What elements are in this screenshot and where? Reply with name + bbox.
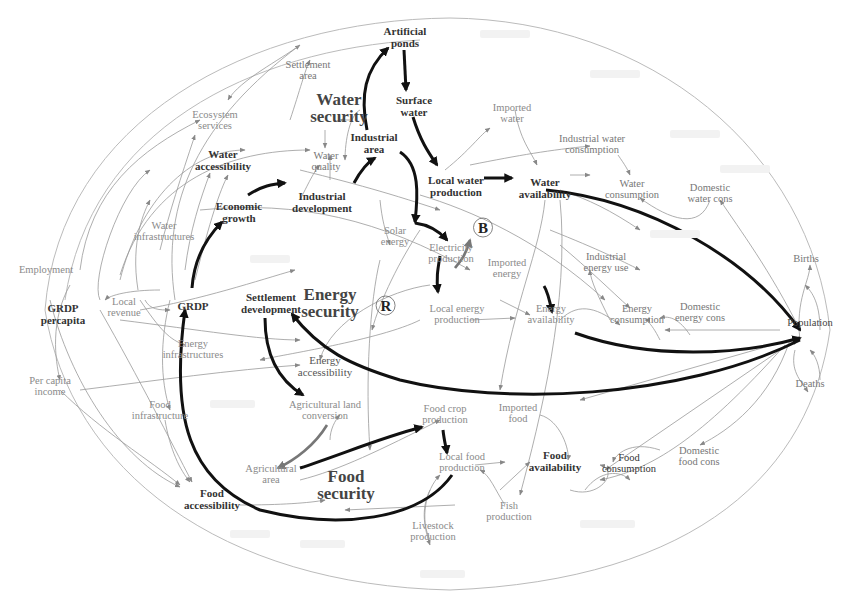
node-water-quality: Water quality — [311, 150, 340, 172]
node-domestic-water-cons: Domestic water cons — [687, 182, 732, 204]
node-industrial-development: Industrial development — [292, 191, 352, 214]
node-local-revenue: Local revenue — [107, 296, 140, 318]
node-water-accessibility: Water accessibility — [195, 149, 251, 172]
node-settlement-development: Settlement development — [241, 292, 301, 315]
node-industrial-energy-use: Industrial energy use — [584, 251, 629, 273]
thin-causal-links — [50, 45, 820, 545]
node-agricultural-area: Agricultural area — [245, 463, 296, 485]
food-security-label: Food security — [317, 468, 375, 502]
node-imported-water: Imported water — [493, 102, 532, 124]
node-water-infrastructures: Water infrastructures — [134, 220, 195, 242]
node-energy-availability: Energy availability — [527, 303, 574, 325]
node-domestic-energy-cons: Domestic energy cons — [675, 301, 725, 323]
balancing-loop-marker: B — [478, 220, 488, 237]
node-imported-food: Imported food — [499, 402, 538, 424]
node-ecosystem-services: Ecosystem services — [192, 109, 238, 131]
node-food-availability: Food availability — [529, 450, 582, 473]
node-solar-energy: Solar energy — [381, 225, 409, 247]
node-population: Population — [787, 317, 833, 328]
node-local-energy-production: Local energy production — [430, 303, 485, 325]
node-surface-water: Surface water — [396, 95, 432, 118]
node-local-food-production: Local food production — [439, 451, 485, 473]
node-agricultural-land-conversion: Agricultural land conversion — [289, 399, 361, 421]
node-births: Births — [793, 253, 819, 264]
node-per-capita-income: Per capita income — [29, 375, 71, 397]
energy-security-label: Energy security — [301, 286, 359, 320]
node-food-crop-production: Food crop production — [422, 403, 468, 425]
node-electricity-production: Electricity production — [428, 242, 474, 264]
node-food-accessibility: Food accessibility — [184, 488, 240, 511]
loop-circle-icon — [472, 217, 494, 239]
node-domestic-food-cons: Domestic food cons — [678, 445, 719, 467]
node-energy-consumption: Energy consumption — [610, 303, 664, 325]
node-livestock-production: Livestock production — [410, 520, 456, 542]
node-food-infrastructure: Food infrastructure — [132, 399, 189, 421]
node-water-consumption: Water consumption — [605, 178, 659, 200]
node-artificial-ponds: Artificial ponds — [384, 26, 427, 49]
node-settlement-area: Settlement area — [286, 59, 331, 81]
node-fish-production: Fish production — [486, 500, 532, 522]
node-imported-energy: Imported energy — [488, 257, 527, 279]
node-energy-infrastructures: Energy infrastructures — [163, 338, 224, 360]
medium-causal-links — [278, 240, 470, 468]
node-food-consumption: Food consumption — [602, 452, 656, 474]
reinforcing-loop-marker: R — [381, 298, 392, 315]
node-water-availability: Water availability — [519, 177, 572, 200]
loop-circle-icon — [375, 295, 397, 317]
node-economic-growth: Economic growth — [216, 201, 262, 224]
node-energy-accessibility: Energy accessibility — [298, 355, 352, 378]
node-local-water-production: Local water production — [428, 175, 484, 198]
node-grdp-percapita: GRDP percapita — [41, 303, 85, 326]
node-employment: Employment — [19, 264, 73, 275]
node-industrial-area: Industrial area — [350, 132, 397, 155]
node-industrial-water-consumption: Industrial water consumption — [559, 133, 625, 155]
node-grdp: GRDP — [177, 301, 208, 313]
node-deaths: Deaths — [795, 378, 824, 389]
water-security-label: Water security — [310, 91, 368, 125]
